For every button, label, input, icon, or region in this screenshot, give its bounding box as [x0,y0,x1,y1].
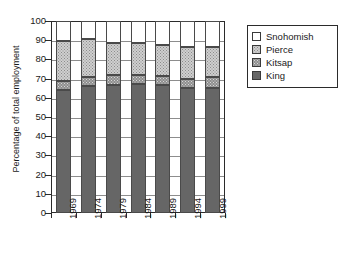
legend-swatch-snohomish [252,32,261,41]
bar-segment-pierce[interactable] [106,43,121,75]
legend-label: Snohomish [266,32,314,42]
bar-segment-kitsap[interactable] [131,75,146,85]
legend-item-pierce[interactable]: Pierce [252,43,334,56]
stacked-bar-chart: Percentage of total employment 010203040… [0,0,343,265]
bar-segment-kitsap[interactable] [180,79,195,89]
y-tick-label: 60 [6,93,46,103]
bar-segment-kitsap[interactable] [106,75,121,86]
bar-segment-pierce[interactable] [155,45,170,76]
y-tick-label: 100 [6,16,46,26]
legend-label: Kitsap [266,58,292,68]
legend-label: King [266,71,285,81]
bar-segment-pierce[interactable] [131,43,146,75]
bar-segment-pierce[interactable] [81,39,96,76]
bar-segment-kitsap[interactable] [56,81,71,91]
bar-segment-snohomish[interactable] [180,21,195,47]
bar-segment-kitsap[interactable] [155,76,170,86]
x-tick-label: 1974 [93,185,103,219]
bar-segment-snohomish[interactable] [81,21,96,39]
y-tick-label: 40 [6,131,46,141]
bar-segment-snohomish[interactable] [155,21,170,45]
y-tick-label: 70 [6,74,46,84]
legend-item-king[interactable]: King [252,69,334,82]
x-tick-label: 1984 [143,185,153,219]
bar-segment-kitsap[interactable] [205,77,220,89]
y-tick-label: 20 [6,170,46,180]
x-tick-label: 1969 [68,185,78,219]
y-tick-label: 30 [6,150,46,160]
legend-item-kitsap[interactable]: Kitsap [252,56,334,69]
bar-segment-pierce[interactable] [56,41,71,80]
legend-item-snohomish[interactable]: Snohomish [252,30,334,43]
legend-label: Pierce [266,45,293,55]
x-tick-label: 1999 [218,185,228,219]
x-tick-label: 1989 [168,185,178,219]
x-tick-label: 1994 [193,185,203,219]
y-tick-label: 0 [6,208,46,218]
bar-segment-snohomish[interactable] [106,21,121,43]
legend-swatch-pierce [252,45,261,54]
y-tick-label: 90 [6,35,46,45]
y-tick-label: 80 [6,54,46,64]
y-tick-label: 50 [6,112,46,122]
legend-swatch-king [252,71,261,80]
bar-segment-pierce[interactable] [205,47,220,77]
legend-swatch-kitsap [252,58,261,67]
bar-segment-snohomish[interactable] [131,21,146,43]
y-tick-label: 10 [6,189,46,199]
x-tick [51,213,52,218]
bar-segment-snohomish[interactable] [205,21,220,47]
bar-segment-kitsap[interactable] [81,77,96,87]
bar-segment-pierce[interactable] [180,47,195,79]
bar-segment-snohomish[interactable] [56,21,71,41]
chart-legend: SnohomishPierceKitsapKing [247,25,338,88]
x-tick-label: 1979 [118,185,128,219]
